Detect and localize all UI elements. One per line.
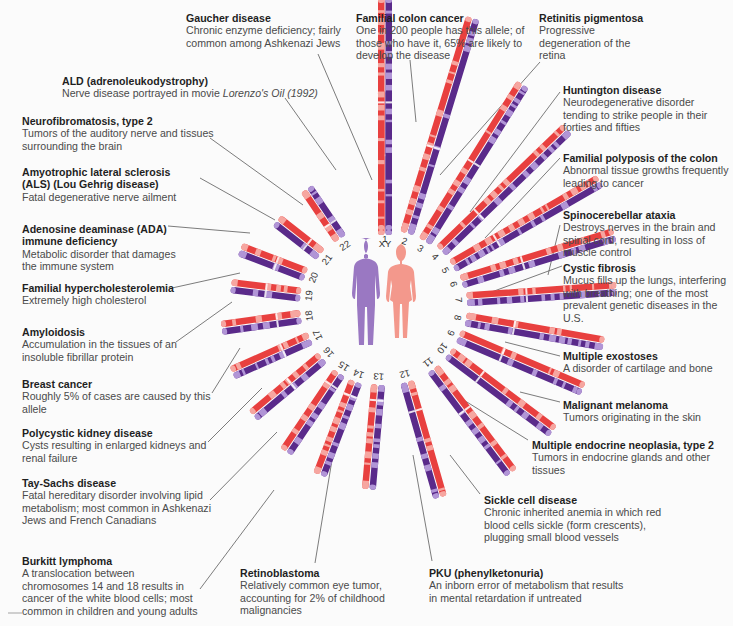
disease-label-retinoblastoma: RetinoblastomaRelatively common eye tumo…: [240, 567, 400, 617]
disease-label-nf2: Neurofibromatosis, type 2Tumors of the a…: [22, 115, 222, 152]
disease-label-men2: Multiple endocrine neoplasia, type 2Tumo…: [532, 439, 732, 476]
disease-description: Relatively common eye tumor, accounting …: [240, 579, 400, 616]
chromosome-number-1: 1: [382, 233, 387, 244]
disease-title: Familial polyposis of the colon: [563, 152, 733, 164]
disease-title: Retinoblastoma: [240, 567, 400, 579]
disease-label-ald: ALD (adrenoleukodystrophy)Nerve disease …: [62, 75, 362, 100]
disease-label-fh: Familial hypercholesterolemiaExtremely h…: [22, 282, 182, 307]
disease-title: Neurofibromatosis, type 2: [22, 115, 222, 127]
chromosome-pair-13: [362, 384, 385, 490]
disease-title: Huntington disease: [563, 84, 728, 96]
chromosome-pair-11: [428, 365, 517, 477]
disease-description: Chronic inherited anemia in which red bl…: [484, 506, 669, 543]
disease-description: Accumulation in the tissues of an insolu…: [22, 338, 182, 363]
chromosome-number-5: 5: [440, 265, 452, 275]
chromosome-number-16: 16: [321, 345, 336, 360]
chromosome-pair-21: [273, 215, 325, 260]
disease-description: Mucus fills up the lungs, interfering wi…: [563, 274, 733, 324]
human-figures: [352, 238, 416, 345]
disease-label-tay-sachs: Tay-Sachs diseaseFatal hereditary disord…: [22, 477, 217, 527]
disease-label-breast-cancer: Breast cancerRoughly 5% of cases are cau…: [22, 378, 212, 415]
disease-description: A translocation between chromosomes 14 a…: [22, 567, 202, 617]
chromosome-number-11: 11: [421, 355, 436, 370]
disease-label-gaucher: Gaucher diseaseChronic enzyme deficiency…: [186, 12, 346, 49]
disease-description: Extremely high cholesterol: [22, 294, 182, 306]
disease-title: Multiple exostoses: [563, 350, 733, 362]
chromosome-number-4: 4: [430, 251, 442, 262]
disease-label-retinitis: Retinitis pigmentosaProgressive degenera…: [539, 12, 659, 62]
disease-description: Chronic enzyme deficiency; fairly common…: [186, 24, 346, 49]
chromosome-number-10: 10: [435, 341, 450, 356]
chromosome-number-9: 9: [445, 329, 457, 338]
disease-label-als: Amyotrophic lateral sclerosis (ALS) (Lou…: [22, 166, 197, 203]
disease-description: Fatal hereditary disorder involving lipi…: [22, 489, 217, 526]
chromosome-number-17: 17: [310, 328, 324, 342]
disease-title: Familial colon cancer: [356, 12, 532, 24]
disease-label-burkitt: Burkitt lymphomaA translocation between …: [22, 555, 202, 617]
disease-description: Tumors of the auditory nerve and tissues…: [22, 127, 222, 152]
chromosome-number-18: 18: [303, 310, 315, 322]
disease-label-pku: PKU (phenylketonuria)An inborn error of …: [429, 567, 629, 604]
disease-label-cf: Cystic fibrosisMucus fills up the lungs,…: [563, 262, 733, 324]
disease-label-huntington: Huntington diseaseNeurodegenerative diso…: [563, 84, 728, 134]
disease-title: Familial hypercholesterolemia: [22, 282, 182, 294]
male-figure-icon: [352, 238, 380, 345]
disease-title: Gaucher disease: [186, 12, 346, 24]
chromosome-number-12: 12: [398, 367, 411, 380]
disease-description: Progressive degeneration of the retina: [539, 24, 659, 61]
leader-line-als: [200, 178, 275, 220]
chromosome-number-7: 7: [453, 297, 464, 303]
chromosome-pair-4: [436, 124, 572, 256]
disease-description: Metabolic disorder that damages the immu…: [22, 248, 182, 273]
chromosome-pair-12: [400, 380, 447, 499]
disease-description: One in 200 people has this allele; of th…: [356, 24, 532, 61]
disease-title: Spinocerebellar ataxia: [563, 209, 733, 221]
disease-label-amyloidosis: AmyloidosisAccumulation in the tissues o…: [22, 326, 182, 363]
disease-label-exostoses: Multiple exostosesA disorder of cartilag…: [563, 350, 733, 375]
disease-description: Fatal degenerative nerve ailment: [22, 191, 197, 203]
leader-line-sickle-cell: [450, 455, 480, 494]
disease-title: Breast cancer: [22, 378, 212, 390]
disease-label-ada: Adenosine deaminase (ADA) immune deficie…: [22, 223, 182, 273]
chromosome-number-22: 22: [337, 238, 352, 253]
disease-label-pkd: Polycystic kidney diseaseCysts resulting…: [22, 427, 217, 464]
disease-title: ALD (adrenoleukodystrophy): [62, 75, 362, 87]
disease-label-sickle-cell: Sickle cell diseaseChronic inherited ane…: [484, 494, 669, 544]
disease-title: Multiple endocrine neoplasia, type 2: [532, 439, 732, 451]
disease-description: Destroys nerves in the brain and spinal …: [563, 221, 733, 258]
disease-title: Malignant melanoma: [563, 399, 733, 411]
disease-description: Tumors originating in the skin: [563, 411, 733, 423]
disease-title: Retinitis pigmentosa: [539, 12, 659, 24]
disease-description: A disorder of cartilage and bone: [563, 362, 733, 374]
disease-title: Adenosine deaminase (ADA) immune deficie…: [22, 223, 182, 248]
chromosome-number-20: 20: [306, 271, 320, 285]
disease-title: Sickle cell disease: [484, 494, 669, 506]
disease-description: Nerve disease portrayed in movie Lorenzo…: [62, 87, 362, 99]
disease-description: Cysts resulting in enlarged kidneys and …: [22, 439, 217, 464]
chromosome-number-8: 8: [452, 314, 464, 321]
disease-description: Roughly 5% of cases are caused by this a…: [22, 390, 212, 415]
disease-label-sca: Spinocerebellar ataxiaDestroys nerves in…: [563, 209, 733, 259]
disease-label-colon-cancer: Familial colon cancerOne in 200 people h…: [356, 12, 532, 62]
chromosome-pair-22: [301, 185, 346, 243]
disease-title: Amyotrophic lateral sclerosis (ALS) (Lou…: [22, 166, 197, 191]
disease-label-polyposis: Familial polyposis of the colonAbnormal …: [563, 152, 733, 189]
leader-line-melanoma: [520, 392, 560, 402]
film-title: Lorenzo's Oil (1992): [223, 87, 318, 99]
disease-description: Abnormal tissue growths frequently leadi…: [563, 164, 733, 189]
disease-title: Amyloidosis: [22, 326, 182, 338]
leader-line-colon-cancer: [410, 60, 416, 122]
chromosome-pair-18: [221, 310, 302, 335]
disease-title: PKU (phenylketonuria): [429, 567, 629, 579]
leader-line-ald: [285, 98, 336, 170]
chromosome-number-19: 19: [302, 290, 314, 302]
disease-title: Burkitt lymphoma: [22, 555, 202, 567]
page-corner-mark: [8, 612, 22, 614]
disease-description: An inborn error of metabolism that resul…: [429, 579, 629, 604]
disease-title: Tay-Sachs disease: [22, 477, 217, 489]
chromosome-numbers: XY12345678910111213141516171819202122: [302, 233, 464, 383]
chromosome-number-6: 6: [448, 280, 460, 288]
leader-line-gaucher: [318, 54, 372, 180]
disease-label-melanoma: Malignant melanomaTumors originating in …: [563, 399, 733, 424]
disease-description: Tumors in endocrine glands and other tis…: [532, 451, 732, 476]
